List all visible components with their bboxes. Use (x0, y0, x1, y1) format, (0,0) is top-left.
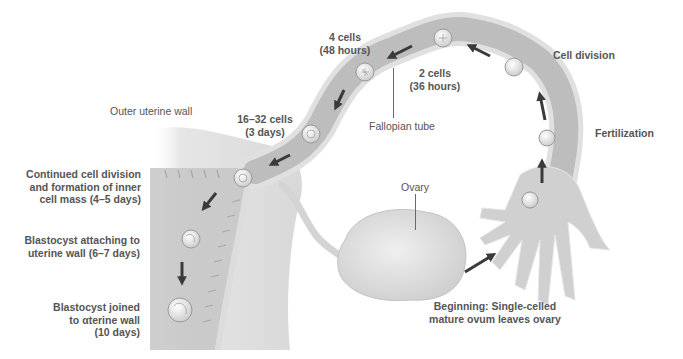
label-four-cells: 4 cells (48 hours) (305, 31, 385, 56)
label-two-cells: 2 cells (36 hours) (395, 67, 475, 92)
label-ovary: Ovary (401, 181, 429, 194)
label-blastocyst-attaching: Blastocyst attaching to uterine wall (6–… (0, 234, 140, 259)
cell-division-cell (505, 58, 523, 76)
label-beginning: Beginning: Single-celled mature ovum lea… (425, 300, 565, 325)
fallopian-tube-leader-line (393, 68, 394, 118)
ovary (338, 209, 466, 300)
blastocyst-joined (168, 298, 192, 322)
fimbriae (480, 167, 610, 305)
label-sixteen-cells: 16–32 cells (3 days) (225, 113, 305, 138)
label-blastocyst-joined: Blastocyst joined to αterine wall (10 da… (0, 301, 140, 339)
inner-cell-mass-stage (234, 169, 252, 187)
label-outer-uterine-wall: Outer uterine wall (110, 105, 192, 118)
ovum-in-fimbriae (522, 192, 538, 208)
label-fallopian-tube: Fallopian tube (369, 120, 435, 133)
label-continued-division: Continued cell division and formation of… (0, 168, 141, 206)
fertilized-ovum (539, 130, 555, 146)
label-cell-division: Cell division (553, 49, 615, 62)
ovary-leader-line (415, 194, 416, 230)
fertilization-diagram: 4 cells (48 hours) 2 cells (36 hours) Ce… (0, 0, 683, 359)
label-fertilization: Fertilization (595, 127, 654, 140)
blastocyst-attaching (182, 230, 200, 248)
